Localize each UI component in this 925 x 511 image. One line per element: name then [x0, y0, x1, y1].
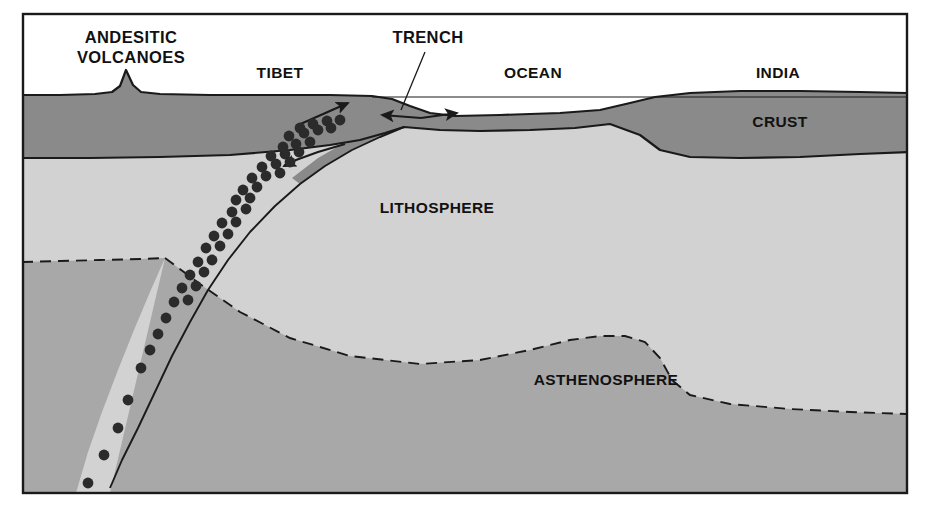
earthquake-focus-dot [201, 243, 212, 254]
geological-cross-section-figure: ANDESITIC VOLCANOES TIBET TRENCH OCEAN I… [0, 0, 925, 511]
label-ocean: OCEAN [504, 64, 562, 81]
label-tibet: TIBET [257, 64, 304, 81]
earthquake-focus-dot [169, 297, 180, 308]
earthquake-focus-dot [227, 207, 238, 218]
earthquake-focus-dot [223, 229, 234, 240]
earthquake-focus-dot [193, 257, 204, 268]
earthquake-focus-dot [294, 147, 305, 158]
earthquake-focus-dot [299, 128, 310, 139]
label-india: INDIA [756, 64, 800, 81]
earthquake-focus-dot [275, 168, 286, 179]
earthquake-focus-dot [145, 345, 156, 356]
earthquake-focus-dot [209, 231, 220, 242]
earthquake-focus-dot [245, 193, 256, 204]
earthquake-focus-dot [207, 255, 218, 266]
earthquake-focus-dot [335, 115, 346, 126]
label-crust: CRUST [752, 113, 808, 130]
earthquake-focus-dot [231, 195, 242, 206]
earthquake-focus-dot [305, 137, 316, 148]
earthquake-focus-dot [123, 395, 134, 406]
earthquake-focus-dot [313, 125, 324, 136]
earthquake-focus-dot [241, 204, 252, 215]
earthquake-focus-dot [199, 267, 210, 278]
earthquake-focus-dot [217, 218, 228, 229]
label-trench: TRENCH [392, 28, 463, 46]
earthquake-focus-dot [183, 295, 194, 306]
earthquake-focus-dot [153, 329, 164, 340]
earthquake-focus-dot [231, 217, 242, 228]
label-andesitic-volcanoes-line2: VOLCANOES [77, 48, 185, 66]
earthquake-focus-dot [161, 313, 172, 324]
earthquake-focus-dot [177, 283, 188, 294]
earthquake-focus-dot [99, 450, 110, 461]
earthquake-focus-dot [83, 478, 94, 489]
earthquake-focus-dot [252, 182, 263, 193]
earthquake-focus-dot [191, 281, 202, 292]
cross-section-canvas: ANDESITIC VOLCANOES TIBET TRENCH OCEAN I… [0, 0, 925, 511]
earthquake-focus-dot [261, 171, 272, 182]
earthquake-focus-dot [285, 157, 296, 168]
label-asthenosphere: ASTHENOSPHERE [534, 371, 679, 388]
earthquake-focus-dot [215, 241, 226, 252]
earthquake-focus-dot [136, 363, 147, 374]
label-lithosphere: LITHOSPHERE [380, 199, 495, 216]
earthquake-focus-dot [185, 270, 196, 281]
label-andesitic-volcanoes-line1: ANDESITIC [85, 28, 178, 46]
earthquake-focus-dot [113, 423, 124, 434]
earthquake-focus-dot [326, 123, 337, 134]
